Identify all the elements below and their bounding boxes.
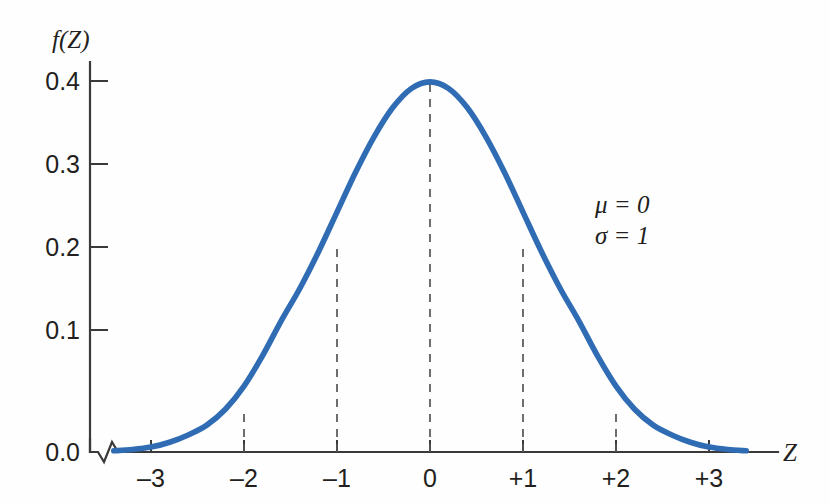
y-tick-label-0-2: 0.2 <box>45 233 80 261</box>
x-tick-label-plus2: +2 <box>602 464 631 492</box>
x-tick-label-minus1: –1 <box>323 464 351 492</box>
normal-distribution-figure: 0.4 0.3 0.2 0.1 0.0 f(Z) –3 –2 –1 0 +1 +… <box>0 0 829 504</box>
x-tick-label-minus2: –2 <box>230 464 258 492</box>
y-tick-label-0-4: 0.4 <box>45 67 80 95</box>
y-tick-label-0-3: 0.3 <box>45 150 80 178</box>
x-axis-title: Z <box>783 439 798 466</box>
chart-canvas: 0.4 0.3 0.2 0.1 0.0 f(Z) –3 –2 –1 0 +1 +… <box>0 0 829 504</box>
x-tick-label-minus3: –3 <box>137 464 165 492</box>
y-tick-label-0-1: 0.1 <box>45 316 80 344</box>
x-tick-label-plus1: +1 <box>509 464 538 492</box>
annotation-mu: μ = 0 <box>594 191 650 218</box>
y-axis-title: f(Z) <box>52 26 90 54</box>
y-tick-label-0-0: 0.0 <box>45 438 80 466</box>
x-tick-label-0: 0 <box>423 464 437 492</box>
annotation-sigma: σ = 1 <box>595 222 649 249</box>
x-tick-label-plus3: +3 <box>695 464 724 492</box>
